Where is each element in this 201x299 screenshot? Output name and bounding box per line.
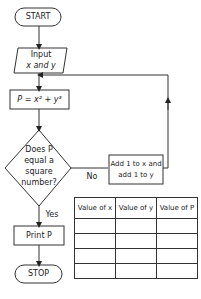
header-y: Value of y (115, 198, 156, 219)
cell[interactable] (75, 249, 116, 264)
increment-label-line1: Add 1 to x and (109, 159, 163, 169)
yes-label: Yes (42, 210, 62, 220)
table-row (75, 234, 198, 249)
cell[interactable] (115, 264, 156, 279)
decision-label-line1: Does P (9, 145, 69, 155)
cell[interactable] (156, 219, 197, 234)
cell[interactable] (156, 234, 197, 249)
header-x: Value of x (75, 198, 116, 219)
stop-label: STOP (15, 269, 62, 279)
process-label: P = x² + y³ (10, 95, 69, 105)
input-label-line2: x and y (16, 61, 66, 71)
table-row (75, 249, 198, 264)
decision-label-line4: number? (9, 178, 69, 188)
process-formula: P = x² + y³ (17, 95, 61, 104)
values-table: Value of x Value of y Value of P (74, 197, 198, 279)
cell[interactable] (156, 264, 197, 279)
print-label: Print P (14, 231, 64, 241)
header-p: Value of P (156, 198, 197, 219)
decision-label-line3: square (9, 167, 69, 177)
increment-label-line2: add 1 to y (109, 170, 163, 180)
cell[interactable] (115, 249, 156, 264)
table-row (75, 219, 198, 234)
input-label-line1: Input (16, 50, 66, 60)
cell[interactable] (75, 219, 116, 234)
cell[interactable] (115, 234, 156, 249)
table-header-row: Value of x Value of y Value of P (75, 198, 198, 219)
input-vars: x and y (26, 61, 56, 70)
cell[interactable] (156, 249, 197, 264)
cell[interactable] (115, 219, 156, 234)
table-row (75, 264, 198, 279)
cell[interactable] (75, 264, 116, 279)
cell[interactable] (75, 234, 116, 249)
start-label: START (15, 12, 61, 22)
decision-label-line2: equal a (9, 156, 69, 166)
no-label: No (84, 172, 100, 182)
